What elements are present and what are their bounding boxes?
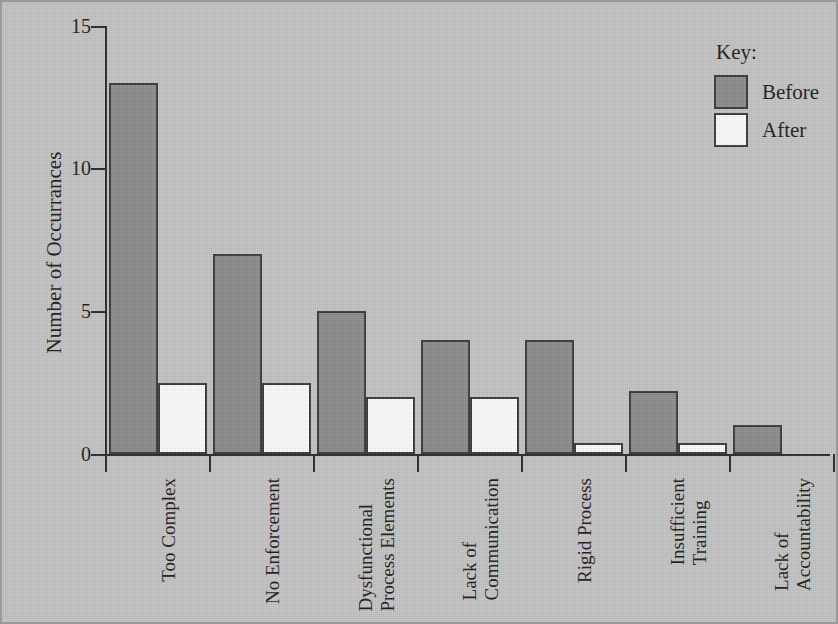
x-category-label-line2-5: Training [689,478,711,565]
x-tick-mark-2 [313,454,315,472]
legend-label-after: After [762,118,806,143]
bar-before-2 [317,311,366,454]
x-category-label-1: No Enforcement [262,478,284,604]
x-category-label-line1-1: No Enforcement [262,478,283,604]
bar-after-0 [158,383,207,454]
legend-label-before: Before [762,80,819,105]
x-tick-mark-6 [729,454,731,472]
bar-before-6 [733,425,782,454]
x-tick-mark-5 [625,454,627,472]
bar-before-3 [421,340,470,454]
x-tick-mark-3 [417,454,419,472]
bar-before-4 [525,340,574,454]
bar-after-3 [470,397,519,454]
x-category-label-3: Lack ofCommunication [459,478,503,600]
x-category-label-6: Lack ofAccountability [771,478,815,591]
x-tick-mark-1 [209,454,211,472]
x-tick-mark-0 [105,454,107,472]
bar-after-4 [574,443,623,454]
y-axis-title: Number of Occurrances [42,93,67,413]
y-tick-mark-15 [91,26,107,28]
x-category-label-5: InsufficientTraining [667,478,711,565]
x-tick-mark-4 [521,454,523,472]
bar-chart-figure: 15 10 5 0 Number of Occurrances Too Comp… [0,0,838,624]
bar-before-5 [629,391,678,454]
x-category-label-line1-5: Insufficient [667,478,688,565]
x-category-label-line2-2: Process Elements [377,478,399,612]
legend-swatch-before [714,75,748,109]
x-axis-line [105,454,830,456]
legend-swatch-after [714,113,748,147]
x-category-label-2: DysfunctionalProcess Elements [355,478,399,612]
y-axis-line [105,26,107,456]
legend: Key: Before After [714,40,834,149]
bar-after-5 [678,443,727,454]
x-tick-mark-end [833,454,835,472]
x-category-label-line2-3: Communication [481,478,503,600]
x-category-label-line1-6: Lack of [771,532,792,591]
legend-item-after: After [714,111,834,149]
legend-title: Key: [716,40,834,65]
y-tick-mark-5 [91,311,107,313]
bar-after-1 [262,383,311,454]
x-category-label-line1-2: Dysfunctional [355,504,376,612]
bar-after-2 [366,397,415,454]
y-tick-mark-10 [91,168,107,170]
bar-before-1 [213,254,262,454]
legend-item-before: Before [714,73,834,111]
y-tick-label-15: 15 [47,16,91,36]
x-category-label-line2-6: Accountability [793,478,815,591]
y-tick-label-0: 0 [47,444,91,464]
bar-before-0 [109,83,158,454]
x-category-label-line1-0: Too Complex [158,478,179,582]
x-category-label-line1-3: Lack of [459,542,480,601]
x-category-label-line1-4: Rigid Process [574,478,595,583]
x-category-label-4: Rigid Process [574,478,596,583]
x-category-label-0: Too Complex [158,478,180,582]
